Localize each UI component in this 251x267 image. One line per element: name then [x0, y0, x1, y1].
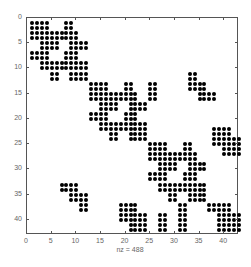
nonzero-marker	[109, 107, 113, 111]
y-tick-right	[235, 143, 238, 144]
nonzero-marker	[129, 228, 133, 232]
nonzero-marker	[55, 31, 59, 35]
nonzero-marker	[232, 213, 236, 217]
nonzero-marker	[133, 112, 137, 116]
nonzero-marker	[30, 56, 34, 60]
nonzero-marker	[222, 127, 226, 131]
nonzero-marker	[173, 183, 177, 187]
x-tick-label: 40	[215, 237, 231, 244]
nonzero-marker	[183, 183, 187, 187]
nonzero-marker	[60, 183, 64, 187]
nonzero-marker	[45, 61, 49, 65]
nonzero-marker	[183, 147, 187, 151]
nonzero-marker	[178, 183, 182, 187]
nonzero-marker	[79, 41, 83, 45]
nonzero-marker	[69, 36, 73, 40]
nonzero-marker	[193, 172, 197, 176]
x-tick-top	[51, 17, 52, 20]
nonzero-marker	[133, 228, 137, 232]
nonzero-marker	[30, 26, 34, 30]
x-tick-top	[75, 17, 76, 20]
x-tick-label: 15	[92, 237, 108, 244]
nonzero-marker	[207, 203, 211, 207]
nonzero-marker	[119, 92, 123, 96]
y-tick	[26, 168, 29, 169]
nonzero-marker	[30, 51, 34, 55]
nonzero-marker	[143, 137, 147, 141]
nonzero-marker	[212, 142, 216, 146]
nonzero-marker	[183, 157, 187, 161]
nonzero-marker	[129, 112, 133, 116]
nonzero-marker	[222, 152, 226, 156]
nonzero-marker	[188, 87, 192, 91]
nonzero-marker	[133, 107, 137, 111]
nonzero-marker	[143, 132, 147, 136]
nonzero-marker	[158, 152, 162, 156]
nonzero-marker	[148, 92, 152, 96]
nonzero-marker	[198, 188, 202, 192]
nonzero-marker	[198, 92, 202, 96]
nonzero-marker	[163, 228, 167, 232]
nonzero-marker	[227, 208, 231, 212]
nonzero-marker	[40, 61, 44, 65]
nonzero-marker	[227, 142, 231, 146]
nonzero-marker	[64, 51, 68, 55]
nonzero-marker	[109, 132, 113, 136]
nonzero-marker	[64, 188, 68, 192]
nonzero-marker	[79, 46, 83, 50]
nonzero-marker	[69, 77, 73, 81]
nonzero-marker	[55, 36, 59, 40]
nonzero-marker	[55, 72, 59, 76]
nonzero-marker	[227, 203, 231, 207]
nonzero-marker	[217, 137, 221, 141]
nonzero-marker	[153, 157, 157, 161]
nonzero-marker	[69, 56, 73, 60]
nonzero-marker	[178, 208, 182, 212]
nonzero-marker	[40, 51, 44, 55]
nonzero-marker	[148, 177, 152, 181]
nonzero-marker	[217, 228, 221, 232]
x-axis-label: nz = 488	[100, 246, 160, 253]
nonzero-marker	[60, 188, 64, 192]
nonzero-marker	[188, 167, 192, 171]
nonzero-marker	[129, 137, 133, 141]
nonzero-marker	[74, 36, 78, 40]
nonzero-marker	[64, 21, 68, 25]
nonzero-marker	[163, 172, 167, 176]
nonzero-marker	[74, 41, 78, 45]
nonzero-marker	[227, 223, 231, 227]
nonzero-marker	[109, 127, 113, 131]
nonzero-marker	[227, 127, 231, 131]
nonzero-marker	[138, 223, 142, 227]
nonzero-marker	[50, 46, 54, 50]
y-tick-label: 0	[6, 13, 22, 20]
nonzero-marker	[173, 157, 177, 161]
nonzero-marker	[84, 198, 88, 202]
nonzero-marker	[217, 203, 221, 207]
nonzero-marker	[173, 188, 177, 192]
nonzero-marker	[133, 208, 137, 212]
nonzero-marker	[84, 77, 88, 81]
nonzero-marker	[64, 56, 68, 60]
nonzero-marker	[212, 208, 216, 212]
nonzero-marker	[129, 122, 133, 126]
y-tick	[26, 118, 29, 119]
nonzero-marker	[129, 208, 133, 212]
nonzero-marker	[124, 127, 128, 131]
nonzero-marker	[45, 46, 49, 50]
nonzero-marker	[188, 142, 192, 146]
nonzero-marker	[114, 132, 118, 136]
nonzero-marker	[148, 172, 152, 176]
nonzero-marker	[173, 198, 177, 202]
nonzero-marker	[124, 203, 128, 207]
nonzero-marker	[178, 228, 182, 232]
nonzero-marker	[193, 162, 197, 166]
nonzero-marker	[212, 127, 216, 131]
nonzero-marker	[94, 82, 98, 86]
nonzero-marker	[124, 87, 128, 91]
nonzero-marker	[30, 31, 34, 35]
nonzero-marker	[212, 97, 216, 101]
nonzero-marker	[202, 183, 206, 187]
y-tick-label: 25	[6, 139, 22, 146]
nonzero-marker	[109, 122, 113, 126]
